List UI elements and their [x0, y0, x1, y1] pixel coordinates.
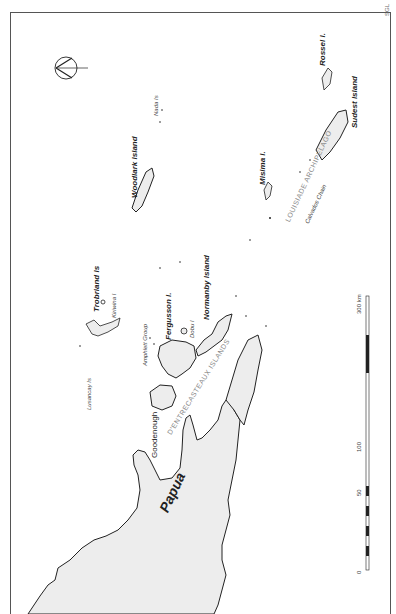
label-dobu: Dobu I	[189, 320, 195, 338]
north-arrow-icon	[55, 57, 88, 79]
dobu-island	[181, 328, 187, 334]
normanby-island	[196, 314, 232, 356]
label-sudest: Sudest Island	[350, 76, 359, 128]
rossel-island	[322, 68, 332, 90]
scale-tick-50: 50	[356, 489, 362, 496]
label-rossel: Rossel I.	[318, 33, 327, 66]
scale-tick-300: 300 km	[356, 294, 362, 314]
papua-landmass	[28, 398, 240, 614]
map-canvas	[0, 0, 396, 614]
scale-tick-100: 100	[356, 442, 362, 452]
label-trobriand: Trobriand Is	[92, 266, 101, 312]
label-nada: Nada Is	[153, 95, 159, 116]
label-goodenough: Goodenough	[150, 412, 159, 458]
credit-label: SGL	[384, 4, 390, 16]
scale-tick-0: 0	[356, 571, 362, 574]
label-amphlett: Amphlett Group	[142, 324, 148, 366]
scale-bar	[366, 296, 369, 570]
label-lusancay: Lusancay Is	[86, 378, 92, 410]
label-normanby: Normanby Island	[202, 255, 211, 320]
label-fergusson: Fergusson I.	[164, 292, 173, 340]
small-island	[101, 300, 105, 304]
goodenough-island	[150, 385, 176, 410]
label-misima: Misima I.	[258, 151, 267, 185]
label-woodlark: Woodlark Island	[130, 136, 139, 198]
fergusson-island	[158, 340, 196, 378]
kiriwina-island	[86, 318, 120, 336]
label-kiriwina: Kiriwina I	[111, 294, 117, 318]
